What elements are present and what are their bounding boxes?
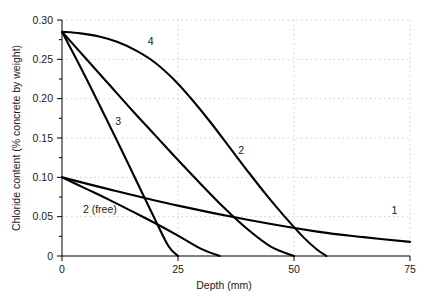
series-curve-4 <box>62 32 326 256</box>
series-label: 4 <box>148 35 154 47</box>
x-axis-title: Depth (mm) <box>196 279 251 291</box>
axis-ticks <box>57 20 410 261</box>
y-tick-label: 0.25 <box>33 53 54 65</box>
gridlines <box>62 20 410 256</box>
y-tick-label: 0.10 <box>33 171 54 183</box>
chloride-depth-line-chart: 00.050.100.150.200.250.300255075 122 (fr… <box>0 0 426 291</box>
y-tick-label: 0.20 <box>33 92 54 104</box>
x-tick-label: 25 <box>172 263 184 275</box>
x-tick-label: 50 <box>288 263 300 275</box>
cropped-caption <box>0 0 426 9</box>
y-tick-label: 0.30 <box>33 14 54 26</box>
y-axis-title: Chloride content (% concrete by weight) <box>10 45 22 231</box>
series-curve-3 <box>62 32 178 256</box>
series-lines <box>62 32 410 256</box>
y-tick-label: 0 <box>47 250 53 262</box>
series-label: 2 (free) <box>83 203 117 215</box>
y-tick-label: 0.05 <box>33 210 54 222</box>
series-label: 2 <box>238 144 244 156</box>
y-tick-label: 0.15 <box>33 132 54 144</box>
x-tick-label: 75 <box>404 263 416 275</box>
series-label: 1 <box>391 204 397 216</box>
x-tick-label: 0 <box>59 263 65 275</box>
chart-figure: 00.050.100.150.200.250.300255075 122 (fr… <box>0 0 426 291</box>
series-label: 3 <box>115 115 121 127</box>
series-labels: 122 (free)34 <box>83 35 398 216</box>
